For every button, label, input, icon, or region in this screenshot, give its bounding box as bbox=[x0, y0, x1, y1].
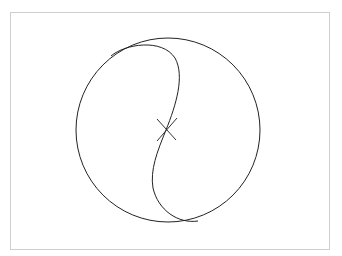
yin-yang-diagram bbox=[0, 0, 342, 256]
s-curve bbox=[111, 45, 198, 221]
outer-circle bbox=[76, 38, 260, 222]
center-x-mark-icon bbox=[157, 118, 177, 141]
